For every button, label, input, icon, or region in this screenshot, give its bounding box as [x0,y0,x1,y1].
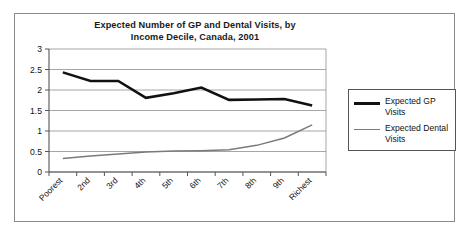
y-tick-label: 2.5 [30,65,42,75]
x-tick-label: 7th [215,175,231,191]
x-tick-label: 5th [160,175,176,191]
series-line-expected-dental-visits [63,125,312,159]
x-tick-label: Poorest [37,175,65,203]
x-tick-label: 3rd [104,175,120,191]
chart-legend: Expected GP Visits Expected Dental Visit… [348,89,456,151]
y-tick-label: 1.5 [30,106,42,116]
series-line-expected-gp-visits [63,72,312,105]
x-tick-label: 4th [132,175,148,191]
y-tick-label: 1 [37,126,42,136]
legend-label-dental: Expected Dental Visits [385,123,453,144]
y-axis-ticks-group: 00.511.522.53 [30,44,49,177]
gp-line-swatch [349,96,385,105]
dental-line-swatch [349,123,385,130]
legend-label-gp: Expected GP Visits [385,96,453,117]
y-tick-label: 0.5 [30,147,42,157]
x-tick-label: Richest [287,175,314,202]
gridlines-group [49,49,326,172]
y-tick-label: 0 [37,167,42,177]
y-tick-label: 2 [37,85,42,95]
x-tick-label: 9th [271,175,287,191]
legend-item-expected-dental-visits: Expected Dental Visits [349,123,457,144]
x-tick-label: 8th [243,175,259,191]
x-tick-label: 2nd [75,175,92,192]
x-tick-label: 6th [187,175,203,191]
chart-frame: Expected Number of GP and Dental Visits,… [14,13,455,222]
x-axis-ticks-group: Poorest2nd3rd4th5th6th7th8th9thRichest [37,172,326,203]
y-tick-label: 3 [37,44,42,54]
legend-item-expected-gp-visits: Expected GP Visits [349,96,457,117]
